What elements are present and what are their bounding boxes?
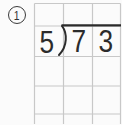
grid-lines <box>35 4 121 125</box>
dividend-ones-cell: 3 <box>92 26 120 56</box>
dividend-tens-cell: 7 <box>65 26 92 56</box>
divisor-digit: 5 <box>40 26 55 58</box>
divisor-cell: 5 <box>34 27 60 57</box>
dividend-digit-tens: 7 <box>71 25 86 57</box>
dividend-digit-ones: 3 <box>99 25 114 57</box>
problem-number-badge: 1 <box>8 6 26 24</box>
problem-number: 1 <box>14 9 20 22</box>
worksheet-page: 1 5 7 3 <box>0 0 122 124</box>
